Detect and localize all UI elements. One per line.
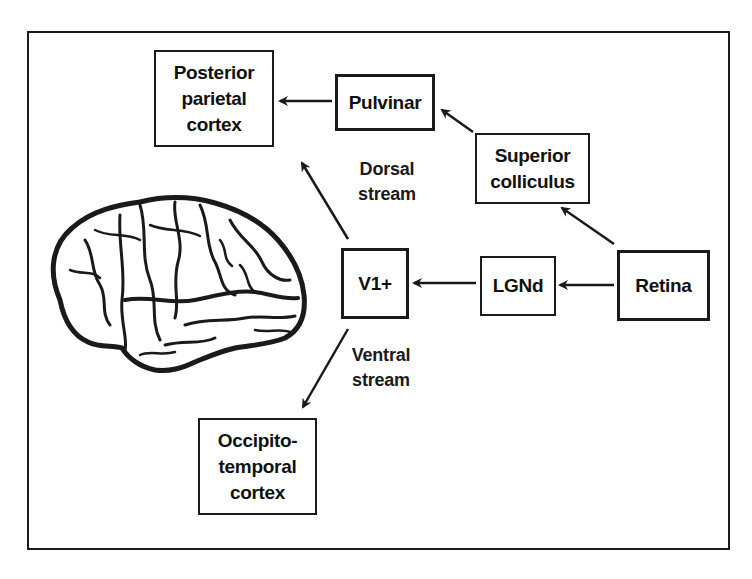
node-label: LGNd [493,273,544,299]
node-pulvinar: Pulvinar [335,74,435,131]
arrow-retina-to-superior-colliculus [562,208,614,244]
node-label-line: cortex [230,480,285,506]
ventral-stream-line: Ventral [344,343,418,368]
node-label-line: parietal [181,86,246,112]
node-label-line: Superior [495,143,571,169]
node-label-line: cortex [186,112,241,138]
ventral-stream-line: stream [344,368,418,393]
node-posterior-parietal-cortex: Posterior parietal cortex [154,50,274,147]
node-lgnd: LGNd [480,256,556,316]
node-label: V1+ [358,271,391,297]
node-label-line: Posterior [174,60,255,86]
node-superior-colliculus: Superior colliculus [475,133,590,204]
node-v1: V1+ [341,248,409,319]
node-retina: Retina [617,250,710,321]
node-label: Retina [635,273,691,299]
arrow-superior-colliculus-to-pulvinar [442,110,473,132]
ventral-stream-label: Ventral stream [344,343,418,393]
dorsal-stream-line: Dorsal [346,157,428,182]
arrow-dorsal-stream [302,163,348,239]
dorsal-stream-line: stream [346,182,428,207]
dorsal-stream-label: Dorsal stream [346,157,428,207]
arrow-ventral-stream [303,329,348,407]
node-label-line: temporal [219,454,297,480]
node-label: Pulvinar [349,90,422,116]
node-label-line: Occipito- [218,428,298,454]
node-occipito-temporal-cortex: Occipito- temporal cortex [198,418,317,515]
node-label-line: colliculus [490,169,575,195]
